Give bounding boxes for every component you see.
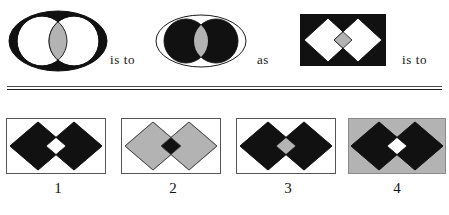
figure-a bbox=[8, 10, 108, 72]
option-4[interactable]: 4 bbox=[348, 118, 449, 174]
connector-is-to-2: is to bbox=[402, 52, 427, 68]
option-4-svg[interactable] bbox=[348, 118, 446, 174]
figure-a-svg bbox=[8, 10, 108, 72]
connector-is-to-1: is to bbox=[110, 52, 135, 68]
option-3-label: 3 bbox=[236, 180, 340, 197]
figure-b bbox=[155, 14, 247, 68]
option-3[interactable]: 3 bbox=[236, 118, 340, 174]
option-1[interactable]: 1 bbox=[6, 118, 110, 174]
connector-as: as bbox=[257, 52, 269, 68]
option-2-svg[interactable] bbox=[121, 118, 221, 174]
figure-c bbox=[300, 14, 386, 66]
figure-c-svg bbox=[300, 14, 386, 66]
option-1-svg[interactable] bbox=[6, 118, 106, 174]
option-3-svg[interactable] bbox=[236, 118, 336, 174]
option-1-label: 1 bbox=[6, 180, 110, 197]
divider-line-top bbox=[7, 86, 442, 87]
option-4-label: 4 bbox=[348, 180, 446, 197]
figure-b-svg bbox=[155, 14, 247, 68]
option-2-label: 2 bbox=[121, 180, 225, 197]
divider-line-bottom bbox=[7, 89, 442, 90]
section-divider bbox=[7, 86, 442, 92]
puzzle-canvas: is to as bbox=[0, 0, 449, 215]
option-2[interactable]: 2 bbox=[121, 118, 225, 174]
